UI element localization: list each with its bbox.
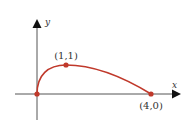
y-axis-label: y [44, 17, 51, 27]
y-axis-arrow-icon [33, 19, 42, 28]
diagram-canvas: x y (1,1) (4,0) [0, 0, 189, 125]
point-end-label: (4,0) [139, 100, 163, 111]
curve [37, 65, 151, 94]
point-max [63, 62, 68, 67]
point-max-label: (1,1) [54, 50, 78, 61]
x-axis-arrow-icon [172, 90, 181, 99]
x-axis-label: x [172, 80, 177, 90]
point-end [148, 91, 153, 96]
point-origin [34, 91, 39, 96]
